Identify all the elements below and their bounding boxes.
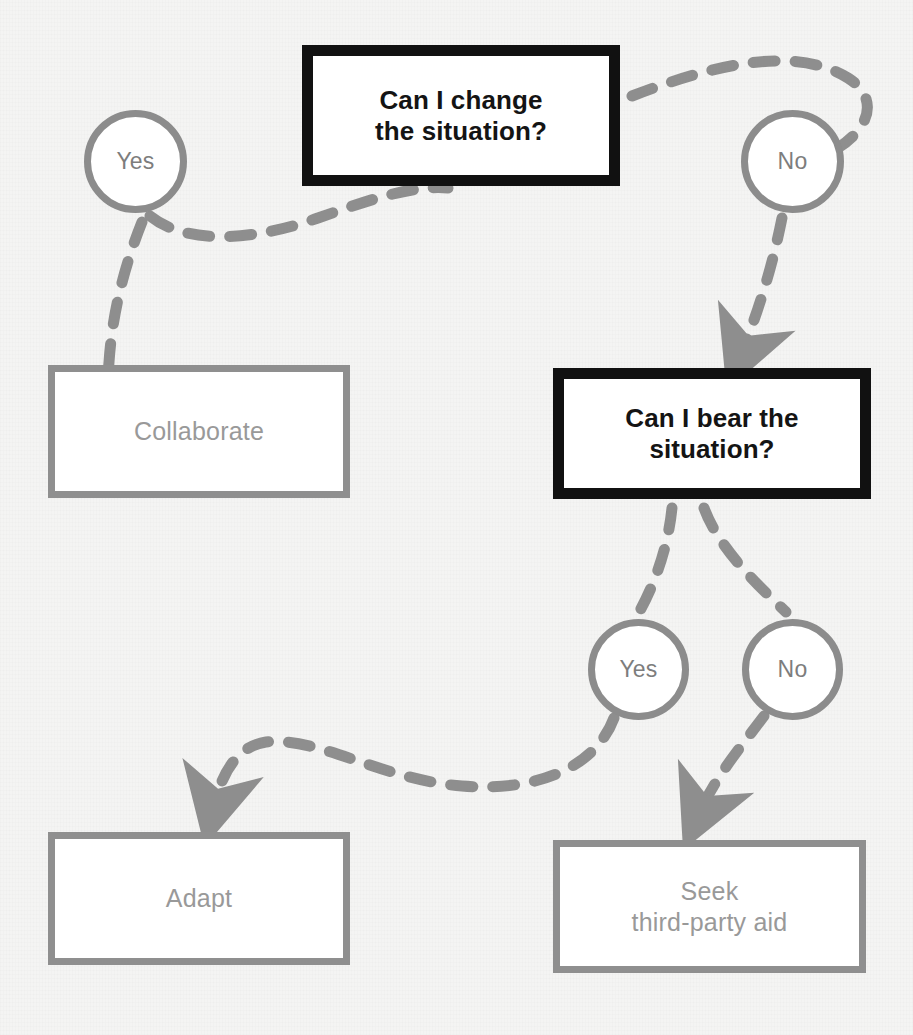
decision-label-can-i-change: Can I change the situation? [375, 85, 547, 146]
outcome-node-collaborate[interactable]: Collaborate [48, 365, 350, 498]
branch-label-no-top: No [778, 148, 808, 175]
flowchart-canvas: Can I change the situation? Yes No Colla… [0, 0, 913, 1035]
edge-yes-to-adapt [214, 718, 614, 806]
branch-label-yes-top: Yes [116, 148, 154, 175]
branch-node-no-top[interactable]: No [741, 110, 844, 213]
branch-node-yes-top[interactable]: Yes [84, 110, 187, 213]
branch-node-no-bottom[interactable]: No [742, 619, 843, 720]
edge-yes-to-can-change [150, 188, 448, 237]
outcome-label-seek-third-party-aid: Seek third-party aid [632, 876, 788, 937]
branch-label-no-bottom: No [778, 656, 808, 683]
decision-node-can-i-bear[interactable]: Can I bear the situation? [553, 368, 871, 499]
outcome-label-collaborate: Collaborate [134, 416, 264, 447]
outcome-node-adapt[interactable]: Adapt [48, 832, 350, 965]
branch-node-yes-bottom[interactable]: Yes [588, 619, 689, 720]
edge-no-to-seek-aid [700, 716, 764, 812]
decision-node-can-i-change[interactable]: Can I change the situation? [302, 45, 620, 186]
decision-label-can-i-bear: Can I bear the situation? [625, 403, 798, 464]
outcome-node-seek-third-party-aid[interactable]: Seek third-party aid [553, 840, 866, 973]
branch-label-yes-bottom: Yes [619, 656, 657, 683]
outcome-label-adapt: Adapt [166, 883, 232, 914]
edge-can-bear-to-no [704, 508, 786, 612]
edge-can-bear-to-yes [638, 508, 672, 614]
edge-no-to-can-bear [742, 218, 782, 352]
